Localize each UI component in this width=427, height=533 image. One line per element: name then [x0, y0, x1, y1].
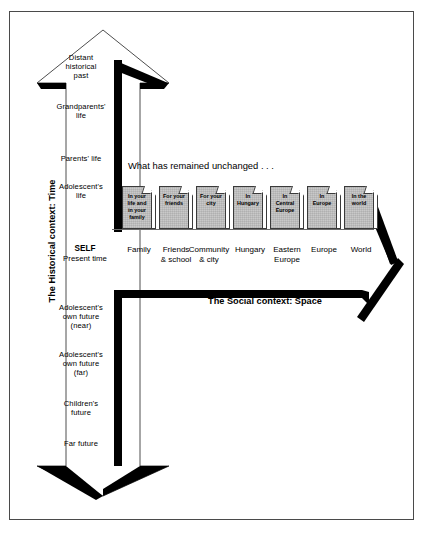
time-axis-label: Children'sfuture [44, 400, 118, 418]
time-axis-label: Adolescent'sown future(far) [44, 351, 118, 378]
space-column-label: World [338, 245, 384, 255]
space-box: For yourfriends [159, 186, 193, 229]
time-axis-label: Grandparents'life [44, 103, 118, 121]
time-axis-label: Adolescent'slife [44, 183, 118, 201]
space-box-label: In yourlife andin yourfamily [123, 193, 151, 221]
time-axis-label: Far future [44, 440, 118, 449]
space-box-label: InEurope [308, 193, 336, 207]
space-box: InHungary [233, 186, 267, 229]
space-box: InCentralEurope [270, 186, 304, 229]
origin-secondary-label: Present time [63, 254, 107, 263]
origin-primary-label: SELF [75, 244, 96, 253]
space-box-label: InHungary [234, 193, 262, 207]
space-box: In theworld [344, 186, 378, 229]
space-column-label: Community& city [186, 245, 232, 265]
space-box-label: For yourcity [197, 193, 225, 207]
diagram-canvas: The Historical context: Time The Social … [0, 0, 427, 533]
space-box-label: For yourfriends [160, 193, 188, 207]
space-box: For yourcity [196, 186, 230, 229]
time-axis-label: Adolescent'sown future(near) [44, 304, 118, 331]
unchanged-headline: What has remained unchanged . . . [128, 160, 274, 171]
origin-label: SELF Present time [50, 244, 120, 264]
horizontal-axis-title: The Social context: Space [150, 296, 380, 306]
space-box-label: In theworld [345, 193, 373, 207]
space-box: In yourlife andin yourfamily [122, 186, 156, 229]
time-axis-label: Parents' life [44, 155, 118, 164]
space-box-label: InCentralEurope [271, 193, 299, 214]
space-box: InEurope [307, 186, 341, 229]
time-axis-label: Distanthistoricalpast [44, 54, 118, 81]
